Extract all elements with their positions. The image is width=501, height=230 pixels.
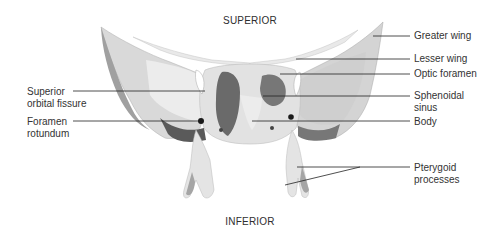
label-line: Body xyxy=(414,116,437,128)
label-line: Superior xyxy=(27,86,86,98)
label-lesser-wing: Lesser wing xyxy=(414,53,467,65)
label-line: Pterygoid xyxy=(414,162,460,174)
label-foramen-rotundum: Foramen rotundum xyxy=(27,116,69,140)
label-line: Optic foramen xyxy=(414,68,477,80)
sphenoid-diagram: SUPERIOR INFERIOR xyxy=(0,0,501,230)
label-superior-orbital-fissure: Superior orbital fissure xyxy=(27,86,86,110)
label-optic-foramen: Optic foramen xyxy=(414,68,477,80)
label-body: Body xyxy=(414,116,437,128)
label-pterygoid-processes: Pterygoid processes xyxy=(414,162,460,186)
label-sphenoidal-sinus: Sphenoidal sinus xyxy=(414,90,464,114)
label-line: Greater wing xyxy=(414,30,471,42)
label-line: sinus xyxy=(414,102,464,114)
label-line: orbital fissure xyxy=(27,98,86,110)
label-line: Foramen xyxy=(27,116,69,128)
label-line: rotundum xyxy=(27,128,69,140)
label-line: processes xyxy=(414,174,460,186)
label-line: Sphenoidal xyxy=(414,90,464,102)
right-foramen-rotundum-hole xyxy=(288,114,294,120)
label-greater-wing: Greater wing xyxy=(414,30,471,42)
label-line: Lesser wing xyxy=(414,53,467,65)
